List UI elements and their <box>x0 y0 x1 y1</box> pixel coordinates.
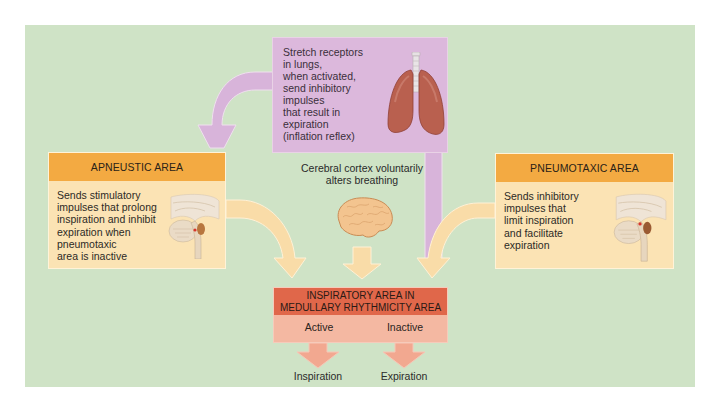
text-line: and facilitate <box>504 227 579 239</box>
pneumotaxic-area-description: Sends inhibitory impulses that limit ins… <box>504 190 579 251</box>
text-line: impulses that prolong <box>57 201 157 213</box>
text-line: Cerebral cortex voluntarily <box>292 162 432 174</box>
text-line: impulses that <box>504 202 579 214</box>
inspiration-arrow <box>297 343 339 368</box>
text-line: that result in <box>283 106 383 118</box>
brainstem-icon <box>610 192 668 262</box>
apneustic-area-description: Sends stimulatory impulses that prolong … <box>57 189 157 262</box>
outcome-inspiration: Inspiration <box>283 370 353 382</box>
cortex-arrow <box>343 247 381 279</box>
text-line: Stretch receptors <box>283 46 383 58</box>
text-line: MEDULLARY RHYTHMICITY AREA <box>274 302 447 314</box>
pneumotaxic-area-title: PNEUMOTAXIC AREA <box>496 154 673 182</box>
text-line: expiration when <box>57 226 157 238</box>
text-line: INSPIRATORY AREA IN <box>274 290 447 302</box>
apneustic-arrow <box>226 200 306 278</box>
pneumotaxic-area-box: PNEUMOTAXIC AREA Sends inhibitory impuls… <box>495 153 674 269</box>
text-line: Sends inhibitory <box>504 190 579 202</box>
cerebral-cortex-label: Cerebral cortex voluntarily alters breat… <box>292 162 432 186</box>
lungs-icon <box>385 52 447 142</box>
inspiratory-area-box: INSPIRATORY AREA IN MEDULLARY RHYTHMICIT… <box>273 287 448 343</box>
text-line: send inhibitory <box>283 82 383 94</box>
text-line: when activated, <box>283 70 383 82</box>
expiration-arrow <box>383 343 425 368</box>
purple-curved-arrow <box>198 72 273 148</box>
outcome-expiration: Expiration <box>369 370 439 382</box>
state-active: Active <box>289 321 349 333</box>
text-line: (inflation reflex) <box>283 130 383 142</box>
text-line: Sends stimulatory <box>57 189 157 201</box>
brainstem-icon <box>165 193 221 259</box>
text-line: limit inspiration <box>504 214 579 226</box>
text-line: expiration <box>283 118 383 130</box>
apneustic-area-title: APNEUSTIC AREA <box>49 153 225 181</box>
text-line: in lungs, <box>283 58 383 70</box>
text-line: inspiration and inhibit <box>57 213 157 225</box>
stretch-receptors-text: Stretch receptors in lungs, when activat… <box>283 46 383 142</box>
apneustic-area-box: APNEUSTIC AREA Sends stimulatory impulse… <box>48 152 226 269</box>
text-line: alters breathing <box>292 174 432 186</box>
text-line: impulses <box>283 94 383 106</box>
text-line: pneumotaxic <box>57 238 157 250</box>
brain-icon <box>333 195 395 241</box>
state-inactive: Inactive <box>375 321 435 333</box>
text-line: area is inactive <box>57 250 157 262</box>
stretch-receptors-box: Stretch receptors in lungs, when activat… <box>272 37 448 153</box>
inspiratory-area-title: INSPIRATORY AREA IN MEDULLARY RHYTHMICIT… <box>274 288 447 315</box>
text-line: expiration <box>504 239 579 251</box>
